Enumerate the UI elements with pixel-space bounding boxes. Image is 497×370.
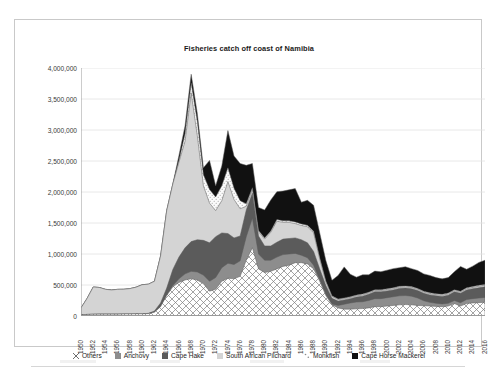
y-axis-tick-label: 2,000,000 (19, 189, 77, 196)
legend-item-label: Monkfish (313, 352, 339, 359)
chart-title: Fisheries catch off coast of Namibia (15, 44, 483, 53)
y-axis-tick-label: 3,000,000 (19, 127, 77, 134)
dark-gray-swatch-icon (162, 353, 168, 359)
y-axis-tick-label: 0 (19, 313, 77, 320)
stacked-area-chart (81, 68, 485, 316)
area-series-group (81, 74, 485, 316)
y-axis-tick-label: 4,000,000 (19, 65, 77, 72)
light-gray-swatch-icon (217, 353, 223, 359)
page-artifact (250, 360, 284, 363)
legend-item-label: Anchovy (124, 352, 149, 359)
plot-area (81, 68, 485, 316)
y-axis-tick-label: 1,500,000 (19, 220, 77, 227)
x-axis-tick-labels: 1950195219541956195819601962196419661968… (81, 318, 485, 354)
legend-item-label: South African Pilchard (226, 352, 291, 359)
legend-item-label: Cape Horse Mackerel (361, 352, 425, 359)
legend-item-cape-horse-mackerel[interactable]: Cape Horse Mackerel (352, 352, 425, 359)
cross-hatch-swatch-icon (73, 353, 79, 359)
y-axis-tick-label: 500,000 (19, 282, 77, 289)
legend-item-south-african-pilchard[interactable]: South African Pilchard (217, 352, 291, 359)
legend-item-others[interactable]: Others (73, 352, 102, 359)
legend-item-anchovy[interactable]: Anchovy (115, 352, 149, 359)
screenshot-root: Fisheries catch off coast of Namibia 4,0… (0, 0, 497, 370)
legend-divider (31, 366, 465, 367)
legend-item-monkfish[interactable]: Monkfish (304, 352, 339, 359)
gray-swatch-icon (115, 353, 121, 359)
chart-legend: OthersAnchovyCape HakeSouth African Pilc… (15, 352, 483, 359)
page-artifact (360, 360, 390, 363)
page-artifact (150, 360, 180, 363)
page-artifact (60, 360, 96, 363)
y-axis-tick-label: 2,500,000 (19, 158, 77, 165)
black-swatch-icon (352, 353, 358, 359)
legend-item-label: Others (82, 352, 102, 359)
legend-item-cape-hake[interactable]: Cape Hake (162, 352, 204, 359)
y-axis-tick-label: 3,500,000 (19, 96, 77, 103)
y-axis-tick-labels: 4,000,0003,500,0003,000,0002,500,0002,00… (15, 68, 77, 316)
dot-hatch-swatch-icon (304, 353, 310, 359)
y-axis-tick-label: 1,000,000 (19, 251, 77, 258)
chart-card: Fisheries catch off coast of Namibia 4,0… (14, 19, 482, 347)
legend-item-label: Cape Hake (171, 352, 204, 359)
